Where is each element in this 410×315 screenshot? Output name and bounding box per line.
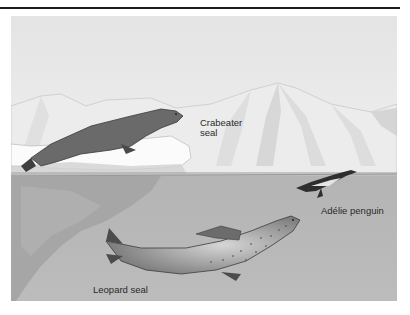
label-adelie-penguin: Adélie penguin xyxy=(321,206,384,216)
antarctic-illustration: Crabeater seal Adélie penguin Leopard se… xyxy=(11,16,397,301)
label-leopard-seal: Leopard seal xyxy=(93,285,148,295)
top-rule xyxy=(0,7,400,9)
scene-artwork xyxy=(11,16,397,301)
label-crabeater-seal: Crabeater seal xyxy=(200,118,242,138)
